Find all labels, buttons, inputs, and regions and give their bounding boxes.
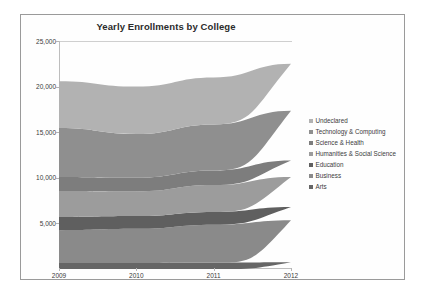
x-tick-mark (136, 268, 137, 271)
legend-label: Business (316, 172, 342, 179)
y-tick-label: 10,000 (22, 174, 56, 181)
area-series (59, 262, 291, 269)
chart-title: Yearly Enrollments by College (21, 21, 311, 32)
x-tick-mark (291, 268, 292, 271)
legend-swatch-icon (309, 141, 313, 145)
legend-item[interactable]: Science & Health (309, 137, 405, 148)
legend-item[interactable]: Business (309, 170, 405, 181)
y-axis-tick-labels: 25,000 20,000 15,000 10,000 5,000 (21, 15, 56, 281)
legend-label: Technology & Computing (316, 128, 386, 135)
legend-label: Education (316, 161, 344, 168)
y-tick-label: 15,000 (22, 129, 56, 136)
legend-label: Humanities & Social Science (316, 150, 397, 157)
x-tick-mark (214, 268, 215, 271)
y-tick-label: 5,000 (22, 220, 56, 227)
legend-swatch-icon (309, 174, 313, 178)
legend-swatch-icon (309, 163, 313, 167)
x-tick-label: 2011 (194, 272, 234, 279)
y-tick-label: 20,000 (22, 83, 56, 90)
chart-figure: Yearly Enrollments by College 25,000 20,… (20, 14, 405, 280)
legend-item[interactable]: Arts (309, 181, 405, 192)
legend-item[interactable]: Humanities & Social Science (309, 148, 405, 159)
x-tick-label: 2012 (271, 272, 311, 279)
legend-swatch-icon (309, 119, 313, 123)
legend-label: Undeclared (316, 117, 348, 124)
legend-item[interactable]: Education (309, 159, 405, 170)
stacked-area-svg (59, 41, 291, 269)
legend-label: Arts (316, 183, 327, 190)
legend-swatch-icon (309, 185, 313, 189)
chart-legend: UndeclaredTechnology & ComputingScience … (309, 115, 405, 192)
legend-item[interactable]: Technology & Computing (309, 126, 405, 137)
x-tick-label: 2009 (39, 272, 79, 279)
x-tick-label: 2010 (116, 272, 156, 279)
plot-area (59, 41, 291, 269)
y-tick-label: 25,000 (22, 38, 56, 45)
x-tick-mark (59, 268, 60, 271)
legend-swatch-icon (309, 152, 313, 156)
legend-item[interactable]: Undeclared (309, 115, 405, 126)
legend-swatch-icon (309, 130, 313, 134)
legend-label: Science & Health (316, 139, 364, 146)
